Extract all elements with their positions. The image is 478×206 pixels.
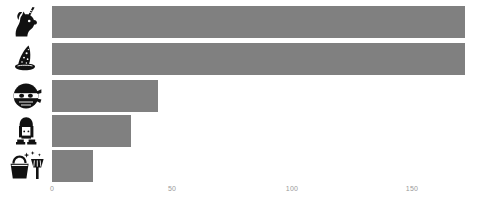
bucket-and-broom-icon xyxy=(4,148,48,184)
bar-chart: 0 50 100 150 xyxy=(0,0,478,206)
bar xyxy=(52,80,158,112)
bar-row xyxy=(0,4,478,40)
plot-area xyxy=(0,0,478,180)
bar-row xyxy=(0,113,478,149)
bar-row xyxy=(0,41,478,77)
x-tick-label: 150 xyxy=(406,184,418,194)
wizard-hat-icon xyxy=(4,41,48,77)
x-tick-label: 0 xyxy=(50,184,54,194)
bar-row xyxy=(0,78,478,114)
bar xyxy=(52,115,131,147)
ninja-icon xyxy=(4,78,48,114)
bar xyxy=(52,43,465,75)
unicorn-icon xyxy=(4,4,48,40)
bar-row xyxy=(0,148,478,184)
bar xyxy=(52,6,465,38)
x-tick-label: 50 xyxy=(168,184,176,194)
person-icon xyxy=(4,113,48,149)
bar xyxy=(52,150,93,182)
x-axis: 0 50 100 150 xyxy=(0,180,478,206)
x-tick-label: 100 xyxy=(286,184,298,194)
